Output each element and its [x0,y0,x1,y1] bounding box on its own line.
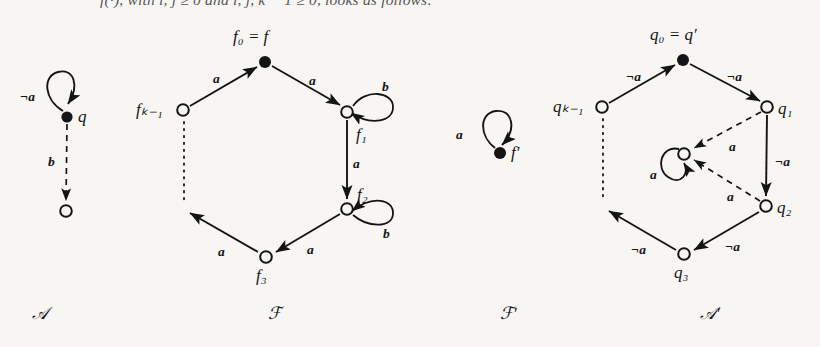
edge-label-q1-q2: ¬a [775,155,790,169]
node-f0 [259,56,271,68]
edge-f0-f1 [272,66,340,105]
edge-label-q2-qcenter: a [727,190,734,204]
edge-label-f2-selfloop: b [383,227,390,241]
caption-automaton-a-prime: 𝒜′ [700,305,720,322]
automaton-a-prime-graphics [596,54,773,260]
node-label-f0: f₀ = f [233,28,268,45]
node-q2 [760,200,772,212]
node-q0 [677,54,689,66]
edge-q-selfloop [47,71,74,111]
edge-label-fk1-f0: a [213,72,220,86]
edge-label-f0-f1: a [309,74,316,88]
edge-label-q-to-sink: b [48,155,55,169]
figure-container: f(·), with i, j ≥ 0 and i, j, k − 1 ≥ 0,… [0,0,820,347]
caption-automaton-f-prime: ℱ′ [500,305,517,322]
edge-fk1-f0 [190,67,257,106]
edge-label-q2-q3: ¬a [725,240,740,254]
edge-label-f2-f3: a [307,243,314,257]
edge-fprime-selfloop [483,111,511,148]
edge-qk1-q0 [609,65,675,103]
node-label-f-prime: f′ [511,144,519,161]
edge-f1-selfloop [351,94,393,121]
node-label-q2: q₂ [777,199,791,216]
node-q1 [761,101,773,113]
edge-label-q3-qk1: ¬a [631,243,646,257]
edge-label-fprime-selfloop: a [456,128,463,142]
edge-q1-q2 [766,115,767,196]
node-label-q: q [78,108,87,125]
node-label-q1: q₁ [778,100,792,117]
node-fk1 [177,104,189,116]
node-label-q3: q₃ [674,264,688,281]
edge-label-qcenter-selfloop: a [650,168,657,182]
node-label-f2: f₂ [357,186,368,203]
node-label-f3: f₃ [256,267,267,284]
node-f3 [260,251,272,263]
node-q [61,111,72,122]
automaton-f-prime-graphics [483,111,511,159]
node-label-f1: f₁ [356,126,367,143]
node-qk1 [596,101,608,113]
edge-label-q-selfloop: ¬a [20,90,35,104]
automata-diagram-svg [0,0,820,347]
node-a-sink [60,205,72,217]
edge-label-q1-qcenter: a [729,140,736,154]
node-f-prime [494,147,506,159]
edge-label-qk1-q0: ¬a [626,70,641,84]
automaton-a-graphics [47,71,74,216]
edge-label-f1-selfloop: b [382,80,389,94]
edge-q1-qcenter [694,112,761,148]
automaton-f-graphics [177,56,393,263]
caption-automaton-a: 𝒜 [32,305,48,322]
node-label-qk1: qₖ₋₁ [553,98,583,115]
node-f1 [341,106,353,118]
node-q3 [678,248,690,260]
node-label-fk1: fₖ₋₁ [136,101,163,118]
edge-label-f1-f2: a [353,157,360,171]
edge-q0-q1 [690,64,760,101]
edge-label-f3-fk1: a [218,245,225,259]
edge-f2-selfloop [352,201,393,225]
node-f2 [341,203,353,215]
edge-q-to-sink [66,124,67,201]
node-label-q0: q₀ = q′ [650,26,697,43]
node-q-center [678,148,690,160]
caption-automaton-f: ℱ [268,305,281,322]
edge-label-q0-q1: ¬a [727,70,742,84]
